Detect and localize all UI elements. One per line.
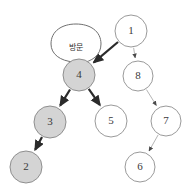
edge-1-8 [134,48,136,58]
graph-svg: 방문 14835726 [0,0,193,193]
edge-4-3 [60,89,70,105]
edge-8-7 [146,90,156,106]
edge-3-2 [35,137,42,150]
node-label-2: 2 [23,160,29,172]
node-3[interactable]: 3 [34,106,66,138]
node-label-3: 3 [47,115,53,127]
edge-7-6 [149,135,158,151]
node-8[interactable]: 8 [123,61,153,91]
node-label-4: 4 [76,68,82,80]
node-4[interactable]: 4 [63,59,95,91]
edge-4-5 [89,89,100,105]
node-label-7: 7 [163,114,169,126]
node-1[interactable]: 1 [115,15,147,47]
node-7[interactable]: 7 [151,106,181,136]
node-5[interactable]: 5 [95,105,127,137]
node-2[interactable]: 2 [10,151,42,183]
bubble-label: 방문 [69,42,83,52]
node-label-1: 1 [128,24,134,36]
node-label-8: 8 [135,69,141,81]
node-6[interactable]: 6 [125,152,155,182]
diagram-canvas: 방문 14835726 [0,0,193,193]
node-label-6: 6 [137,160,143,172]
node-label-5: 5 [108,114,114,126]
